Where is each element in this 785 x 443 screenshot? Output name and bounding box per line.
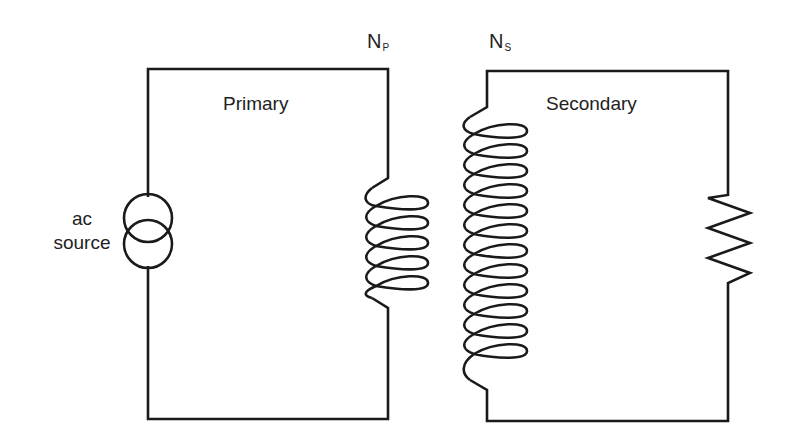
ac-source-label-line2: source xyxy=(44,231,120,255)
secondary-label: Secondary xyxy=(546,93,637,115)
primary-turns-subscript: P xyxy=(382,42,389,53)
primary-wire-left-bottom xyxy=(148,266,388,419)
primary-turns-label: NP xyxy=(367,30,389,53)
primary-coil-icon xyxy=(366,188,428,298)
ac-current-source-icon xyxy=(124,194,172,268)
primary-label: Primary xyxy=(223,93,288,115)
secondary-wire-bottom xyxy=(470,288,728,421)
ac-source-label: ac source xyxy=(44,207,120,255)
secondary-circuit xyxy=(464,71,750,421)
primary-wire-left-top xyxy=(148,69,388,197)
secondary-turns-subscript: S xyxy=(504,42,511,53)
ac-source-label-line1: ac xyxy=(44,207,120,231)
secondary-turns-symbol: N xyxy=(489,30,503,52)
secondary-turns-label: NS xyxy=(489,30,511,53)
primary-turns-symbol: N xyxy=(367,30,381,52)
secondary-wire-top xyxy=(470,71,728,190)
primary-circuit xyxy=(124,69,428,419)
resistor-icon xyxy=(708,190,750,288)
secondary-coil-icon xyxy=(464,117,527,380)
